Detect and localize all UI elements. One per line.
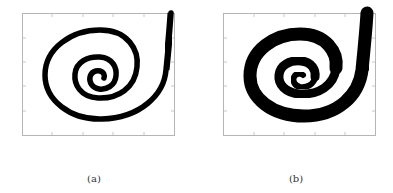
figure-canvas bbox=[0, 0, 393, 193]
panel-a bbox=[23, 13, 175, 136]
caption-a: (a) bbox=[74, 173, 114, 184]
figure: (a) (b) bbox=[0, 0, 393, 193]
caption-b: (b) bbox=[276, 173, 316, 184]
panel-b bbox=[224, 13, 376, 136]
